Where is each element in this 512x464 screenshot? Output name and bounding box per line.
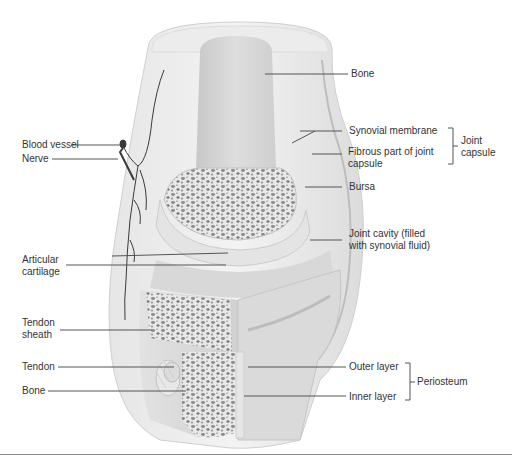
label-joint-cavity-2: with synovial fluid)	[349, 240, 430, 252]
label-periosteum: Periosteum	[417, 376, 468, 388]
label-joint-cavity-1: Joint cavity (filled	[349, 228, 425, 240]
label-outer-layer: Outer layer	[349, 361, 398, 373]
lower-spongy-bone-lower	[182, 352, 238, 437]
label-bone-bottom: Bone	[22, 385, 45, 397]
label-tendon-sheath-2: sheath	[22, 329, 52, 341]
label-fibrous-capsule-1: Fibrous part of joint	[348, 146, 434, 158]
bottom-divider	[0, 454, 512, 455]
label-fibrous-capsule-2: capsule	[348, 158, 382, 170]
label-articular-cartilage-1: Articular	[22, 254, 59, 266]
label-bone-top: Bone	[351, 68, 374, 80]
joint-illustration	[0, 0, 512, 464]
label-tendon: Tendon	[22, 361, 55, 373]
periosteum-layer	[236, 352, 244, 438]
label-articular-cartilage-2: cartilage	[22, 266, 60, 278]
label-bursa: Bursa	[349, 181, 375, 193]
label-inner-layer: Inner layer	[349, 391, 396, 403]
label-synovial-membrane: Synovial membrane	[349, 125, 437, 137]
label-blood-vessel: Blood vessel	[22, 139, 79, 151]
label-joint-capsule-2: capsule	[461, 147, 495, 159]
upper-bone-shaft	[196, 36, 276, 170]
label-joint-capsule-1: Joint	[461, 135, 482, 147]
label-tendon-sheath-1: Tendon	[22, 317, 55, 329]
label-nerve: Nerve	[22, 153, 49, 165]
